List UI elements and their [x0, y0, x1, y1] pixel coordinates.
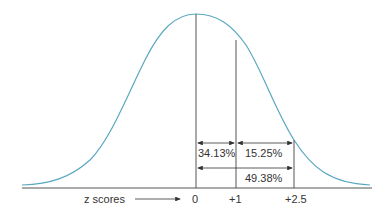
- tick-2.5: +2.5: [285, 193, 307, 205]
- area-label-15: 15.25%: [245, 147, 283, 159]
- tick-0: 0: [192, 193, 198, 205]
- axis-label: z scores: [84, 193, 125, 205]
- tick-1: +1: [229, 193, 242, 205]
- area-label-34: 34.13%: [198, 147, 236, 159]
- area-label-49: 49.38%: [245, 172, 283, 184]
- normal-distribution-diagram: 34.13% 15.25% 49.38% z scores 0 +1 +2.5: [0, 0, 391, 214]
